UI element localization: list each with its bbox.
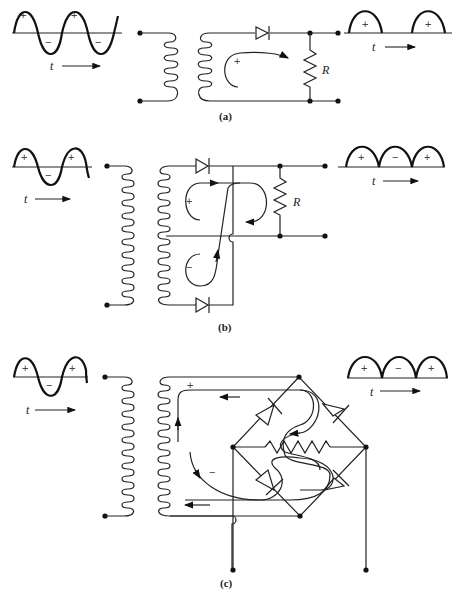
output-sign: − xyxy=(392,152,398,163)
caption-a: (a) xyxy=(219,111,232,122)
resistor-b xyxy=(274,166,286,236)
time-label: t xyxy=(50,60,53,72)
input-sign: + xyxy=(68,152,74,163)
primary-coil-c xyxy=(122,377,134,516)
primary-coil-a xyxy=(164,33,178,101)
caption-c: (c) xyxy=(220,578,232,589)
secondary-coil-a xyxy=(198,33,212,101)
diode-b-bottom xyxy=(196,297,209,313)
diode-a xyxy=(256,26,269,40)
input-sign: − xyxy=(45,170,51,181)
output-sign: + xyxy=(424,152,430,163)
input-sign: + xyxy=(22,363,28,374)
input-sign: − xyxy=(45,37,51,48)
diode-c-ur xyxy=(323,404,349,423)
input-sign: + xyxy=(69,363,75,374)
resistor-label: R xyxy=(293,196,300,208)
secondary-coil-c xyxy=(158,377,170,516)
output-sign: + xyxy=(425,19,431,30)
transformer-c xyxy=(102,374,170,518)
output-sign: + xyxy=(428,363,434,374)
output-sign: + xyxy=(362,19,368,30)
resistor-label: R xyxy=(322,64,329,76)
loop-sign: − xyxy=(186,262,192,273)
loop-sign: + xyxy=(187,380,193,391)
input-waveform-a xyxy=(12,12,122,66)
input-sign: − xyxy=(46,380,52,391)
rectifier-diagram xyxy=(0,0,462,591)
output-sign: + xyxy=(361,363,367,374)
caption-b: (b) xyxy=(218,322,231,333)
resistor-c xyxy=(265,441,330,453)
time-label: t xyxy=(372,175,375,187)
output-sign: − xyxy=(395,363,401,374)
time-label: t xyxy=(26,404,29,416)
resistor-a xyxy=(304,33,316,101)
time-label: t xyxy=(370,386,373,398)
diode-c-lr xyxy=(324,470,349,490)
loop-sign: + xyxy=(234,56,240,67)
primary-coil-b xyxy=(122,166,134,305)
output-sign: + xyxy=(358,152,364,163)
diode-c-ul xyxy=(256,398,282,425)
panel-c xyxy=(13,357,448,573)
panel-a xyxy=(12,11,452,103)
input-sign: + xyxy=(71,10,77,21)
loop-sign: + xyxy=(186,196,192,207)
time-label: t xyxy=(24,193,27,205)
time-label: t xyxy=(372,41,375,53)
loop-sign: − xyxy=(209,467,215,478)
bridge-c xyxy=(230,374,368,572)
current-loop-c-plus xyxy=(178,390,330,500)
input-sign: − xyxy=(95,37,101,48)
transformer-b xyxy=(104,163,170,307)
transformer-a xyxy=(137,30,211,103)
input-sign: + xyxy=(20,10,26,21)
diode-b-top xyxy=(196,158,209,174)
input-sign: + xyxy=(21,152,27,163)
panel-b xyxy=(12,147,445,313)
output-waveform-a xyxy=(344,11,452,47)
